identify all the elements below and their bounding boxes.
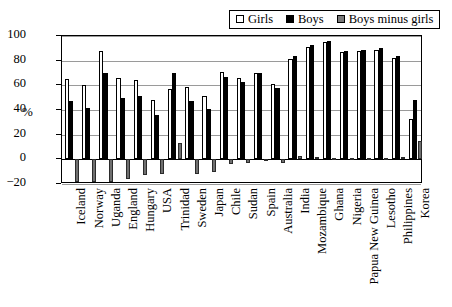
- bar-boys: [361, 50, 365, 160]
- x-tick-label: Philippines: [401, 132, 416, 188]
- x-tick-label: Spain: [264, 160, 279, 188]
- x-tick-label: Uganda: [109, 149, 124, 188]
- bar-boys: [103, 73, 107, 159]
- x-tick-label: Sweden: [195, 148, 210, 188]
- x-tick-label: Korea: [418, 157, 433, 188]
- x-tick-label: Trinidad: [178, 145, 193, 188]
- y-tick-mark--20: [56, 183, 61, 184]
- x-tick-label: England: [126, 146, 141, 188]
- x-tick-label: Hungary: [143, 144, 158, 188]
- x-tick-label: Mozambique: [315, 122, 330, 188]
- bar-boys: [258, 73, 262, 159]
- bar-boys: [241, 82, 245, 160]
- chart-legend: Girls Boys Boys minus girls: [229, 10, 440, 29]
- bar-boys: [275, 88, 279, 160]
- x-tick-label: Australia: [281, 142, 296, 188]
- x-tick-label: Chile: [229, 161, 244, 188]
- x-tick-label: Japan: [212, 160, 227, 188]
- bar-boys: [69, 101, 73, 159]
- x-tick-label: India: [298, 162, 313, 188]
- x-tick-label: USA: [160, 163, 175, 188]
- x-tick-label: Nigeria: [350, 151, 365, 188]
- x-tick-label: Iceland: [74, 151, 89, 188]
- bar-chart: Girls Boys Boys minus girls % −200204060…: [0, 0, 452, 307]
- bar-boys: [224, 77, 228, 160]
- legend-label-girls: Girls: [248, 13, 273, 26]
- bar-boys: [310, 45, 314, 160]
- bar-boys: [396, 56, 400, 160]
- legend-label-boys: Boys: [298, 13, 324, 26]
- legend-item-boys-minus-girls: Boys minus girls: [337, 13, 434, 26]
- diff-swatch: [337, 15, 345, 23]
- bar-boys-minus-girls: [298, 156, 302, 160]
- legend-label-boys-minus-girls: Boys minus girls: [349, 13, 434, 26]
- x-tick-label: Sudan: [246, 157, 261, 188]
- legend-item-girls: Girls: [236, 13, 273, 26]
- boys-swatch: [286, 15, 294, 23]
- bar-boys: [172, 73, 176, 159]
- x-tick-label: Papua New Guinea: [367, 92, 382, 189]
- bar-boys: [344, 51, 348, 160]
- girls-swatch: [236, 15, 244, 23]
- x-tick-label: Lesotho: [384, 148, 399, 188]
- x-tick-label: Ghana: [332, 155, 347, 188]
- legend-item-boys: Boys: [286, 13, 324, 26]
- x-tick-label: Norway: [92, 148, 107, 188]
